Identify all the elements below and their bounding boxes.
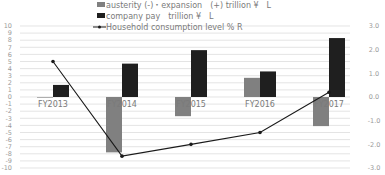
legend: austerity (-)・expansion (+) trillion ¥ L… — [93, 1, 272, 32]
legend-label-company-pay: company pay trillion ¥ L — [106, 12, 214, 21]
bar-company-pay — [191, 50, 207, 97]
bar-company-pay — [122, 64, 138, 97]
right-tick-label: 0.0 — [369, 93, 379, 101]
right-tick-label: 1.0 — [369, 70, 379, 78]
household-point — [258, 131, 262, 135]
right-tick-label: 3.0 — [369, 22, 379, 30]
right-tick-label: -2.0 — [368, 141, 381, 149]
right-tick-label: -1.0 — [368, 117, 381, 125]
household-point — [51, 60, 55, 64]
x-axis-label: FY2016 — [245, 100, 275, 109]
legend-swatch-company-pay — [97, 13, 105, 18]
household-point — [120, 154, 124, 158]
bar-company-pay — [329, 38, 345, 97]
right-axis-ticks: 3.02.01.00.0-1.0-2.0-3.0 — [368, 22, 381, 172]
bar-austerity — [37, 97, 53, 98]
bar-company-pay — [260, 71, 276, 97]
household-point — [189, 143, 193, 147]
bar-austerity — [244, 78, 260, 97]
bar-company-pay — [53, 85, 69, 97]
household-point — [327, 90, 331, 94]
right-tick-label: 2.0 — [369, 46, 379, 54]
left-axis-ticks: 109876543210-1-2-3-4-5-6-7-8-9-10 — [1, 22, 12, 172]
legend-label-austerity: austerity (-)・expansion (+) trillion ¥ L — [106, 1, 272, 10]
legend-marker-household — [98, 26, 101, 29]
legend-swatch-austerity — [97, 2, 105, 7]
left-tick-label: -10 — [1, 164, 12, 172]
bars — [37, 38, 345, 152]
legend-label-household: Household consumption level % R — [106, 23, 243, 32]
x-axis-label: FY2013 — [38, 100, 68, 109]
chart: 109876543210-1-2-3-4-5-6-7-8-9-10 3.02.0… — [0, 0, 385, 175]
x-axis-label: FY2015 — [176, 100, 206, 109]
x-axis-label: FY2017 — [314, 100, 344, 109]
right-tick-label: -3.0 — [368, 164, 381, 172]
x-axis-label: FY2014 — [107, 100, 137, 109]
